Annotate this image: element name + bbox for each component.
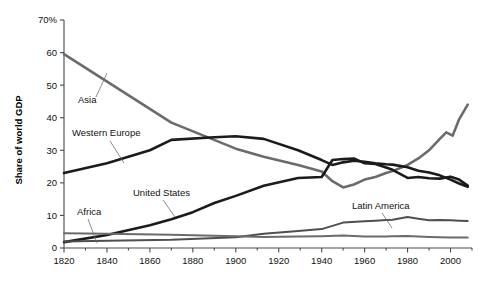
series-label-latin-america: Latin America [352, 200, 410, 211]
y-axis-title: Share of world GDP [13, 95, 24, 185]
series-label-western-europe: Western Europe [72, 127, 140, 138]
y-tick-label: 50 [46, 80, 57, 91]
series-label-africa: Africa [77, 206, 102, 217]
series-label-asia: Asia [78, 94, 97, 105]
x-tick-label: 1900 [225, 255, 246, 266]
y-tick-label: 60 [46, 47, 57, 58]
share-of-world-gdp-line-chart: 010203040506070%182018401860188019001920… [0, 0, 490, 281]
x-tick-label: 1940 [311, 255, 332, 266]
y-tick-label: 10 [46, 210, 57, 221]
leader-line-africa [88, 219, 97, 243]
x-tick-label: 2000 [440, 255, 461, 266]
leader-line-united-states [163, 200, 175, 217]
x-tick-label: 1960 [354, 255, 375, 266]
y-tick-label: 0 [52, 242, 57, 253]
x-tick-label: 1860 [139, 255, 160, 266]
x-tick-label: 1840 [96, 255, 117, 266]
series-label-united-states: United States [133, 187, 190, 198]
x-tick-label: 1820 [53, 255, 74, 266]
x-tick-label: 1980 [397, 255, 418, 266]
y-tick-label: 20 [46, 177, 57, 188]
y-tick-label: 30 [46, 145, 57, 156]
y-tick-label: 70% [38, 14, 58, 25]
axes: 010203040506070%182018401860188019001920… [38, 14, 472, 266]
series-lines [64, 54, 468, 242]
x-tick-label: 1920 [268, 255, 289, 266]
y-tick-label: 40 [46, 112, 57, 123]
x-tick-label: 1880 [182, 255, 203, 266]
chart-root: 010203040506070%182018401860188019001920… [0, 0, 490, 281]
